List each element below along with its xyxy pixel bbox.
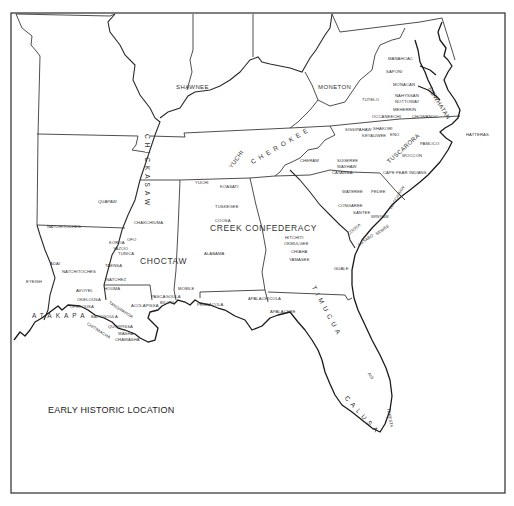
label-choctaw: CHOCTAW: [140, 257, 187, 266]
boundary-tn-south: [140, 175, 310, 180]
boundary-al-ga: [250, 178, 266, 290]
label-tutelo: TUTELO: [362, 98, 379, 102]
map-title: EARLY HISTORIC LOCATION: [48, 405, 174, 415]
label-tuskegee: TUSKEGEE: [215, 205, 239, 209]
label-hatteras: HATTERAS: [466, 133, 489, 137]
label-quapaw: QUAPAW: [98, 200, 117, 204]
label-koasati: KOASATI: [220, 185, 239, 189]
boundary-ky-va: [290, 100, 318, 128]
ohio-river: [160, 14, 332, 118]
label-saponi: SAPONI: [386, 70, 402, 74]
label-bayogoula: BAYOGOULA: [91, 315, 118, 319]
label-pensacola: PENSACOLA: [197, 303, 224, 307]
label-cape-fear: CAPE FEAR INDIANS: [383, 171, 427, 175]
label-alabama: ALABAMA: [204, 252, 224, 256]
label-meherrin: MEHERRIN: [393, 108, 416, 112]
label-wateree: WATEREE: [342, 190, 363, 194]
label-natchitoches-south: NATCHITOCHES: [62, 270, 96, 274]
label-nahyssan: NAHYSSAN: [395, 94, 419, 98]
sabine-river: [37, 225, 55, 320]
label-yuchi-small: YUCHI: [195, 181, 209, 185]
label-cheraw: CHERAW: [300, 159, 319, 163]
label-hitchiti: HITCHITI: [285, 236, 303, 240]
label-moneton: MONETON: [318, 84, 351, 90]
boundary-wv-va: [305, 28, 405, 106]
label-okmulgee: OKMULGEE: [284, 242, 309, 246]
label-santee: SANTEE: [353, 211, 370, 215]
label-occaneechi: OCCANEECHI: [372, 115, 401, 119]
label-winyaw: WINYAW: [371, 215, 389, 219]
label-manahoac: MANAHOAC: [388, 57, 413, 61]
label-waxhaw: WAXHAW: [337, 165, 357, 169]
label-opelousa: OPELOUSA: [70, 305, 94, 309]
label-yamasee: YAMASEE: [289, 258, 310, 262]
boundary-missouri-west: [16, 14, 40, 225]
label-pedee: PEDEE: [371, 190, 386, 194]
label-monacan: MONACAN: [393, 83, 415, 87]
label-quinipissa: QUINIPISSA: [108, 325, 133, 329]
label-mobile: MOBILE: [178, 287, 194, 291]
label-creek-confederacy: CREEK CONFEDERACY: [210, 224, 317, 233]
map-outline: [0, 0, 514, 506]
label-coosa: COOSA: [215, 219, 231, 223]
label-okelousa: OKELOUSA: [77, 298, 101, 302]
label-tunica: TUNICA: [118, 252, 134, 256]
boundary-iowa-missouri: [16, 14, 115, 16]
label-chiaha: CHIAHA: [291, 250, 307, 254]
label-taensa: TAENSA: [105, 264, 122, 268]
label-adai: ADAI: [50, 262, 60, 266]
label-catawba: CATAWBA: [332, 171, 353, 175]
label-guale: GUALE: [334, 267, 349, 271]
boundary-missouri-arkansas: [37, 134, 145, 152]
label-houma: HOUMA: [104, 287, 120, 291]
label-atakapa: ATAKAPA: [32, 313, 89, 320]
label-sissipahaw: SISSIPAHAW: [345, 128, 372, 132]
boundary-pa-md: [332, 14, 442, 32]
boundary-ms-al: [174, 180, 180, 300]
label-nottoway: NOTTOWAY: [395, 100, 419, 104]
label-pamlico: PAMLICO: [420, 142, 439, 146]
label-chickasaw: CHICKASAW: [144, 134, 151, 209]
label-biloxi: BILOXI: [160, 301, 174, 305]
rappahannock: [420, 66, 436, 75]
label-pascagoula: PASCAGOULA: [151, 295, 181, 299]
label-woccon: WOCCON: [402, 154, 422, 158]
boundary-illinois-indiana: [187, 14, 193, 90]
label-shakori: SHAKORI: [373, 127, 393, 131]
label-koroa: KOROA: [109, 241, 125, 245]
label-chowanoc: CHOWANOC: [412, 115, 438, 119]
label-shawnee: SHAWNEE: [176, 84, 209, 90]
label-natchez: NATCHEZ: [106, 278, 126, 282]
label-acolapissa: ACOLAPISSA: [131, 304, 159, 308]
label-chakchiuma: CHAKCHIUMA: [134, 221, 163, 225]
label-eno: ENO: [390, 133, 399, 137]
label-ofo: OFO: [127, 238, 136, 242]
label-keyauwee: KEYAUWEE: [362, 134, 386, 138]
label-eyeish: EYEISH: [26, 280, 42, 284]
label-sugeree: SUGEREE: [337, 159, 358, 163]
label-apalachee: APALACHEE: [270, 310, 296, 314]
label-chawasha: CHAWASHA: [115, 338, 140, 342]
label-avoyel: AVOYEL: [76, 289, 93, 293]
label-apalachicola: APALACHICOLA: [248, 297, 281, 301]
label-congaree: CONGAREE: [338, 204, 363, 208]
label-natchitoches-north: NATCHITOCHES: [47, 225, 81, 229]
label-washa: WASHA: [118, 332, 134, 336]
